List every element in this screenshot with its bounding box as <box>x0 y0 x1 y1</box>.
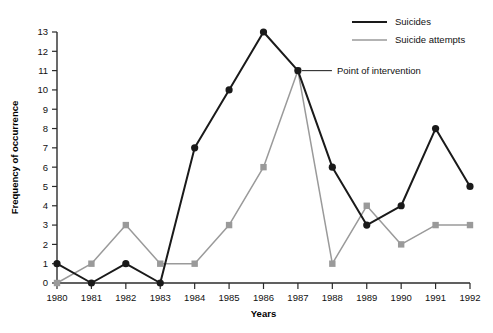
y-axis-ticks: 012345678910111213 <box>37 26 57 288</box>
x-tick-label: 1987 <box>287 292 308 303</box>
x-axis-title: Years <box>251 308 276 319</box>
data-point <box>260 164 266 170</box>
data-point <box>329 260 335 266</box>
data-point <box>398 202 405 209</box>
y-tick-label: 8 <box>43 123 48 134</box>
figure-caption <box>26 326 486 333</box>
x-tick-label: 1983 <box>150 292 171 303</box>
x-tick-label: 1988 <box>322 292 343 303</box>
y-tick-label: 6 <box>43 162 48 173</box>
data-point <box>432 125 439 132</box>
y-tick-label: 10 <box>37 84 48 95</box>
data-point <box>294 67 301 74</box>
x-axis-ticks: 1980198119821983198419851986198719881989… <box>46 283 480 303</box>
data-point <box>157 260 163 266</box>
y-tick-label: 2 <box>43 239 48 250</box>
data-point <box>225 86 232 93</box>
x-tick-label: 1980 <box>46 292 67 303</box>
data-point <box>88 279 95 286</box>
data-point <box>191 260 197 266</box>
x-tick-label: 1989 <box>356 292 377 303</box>
y-tick-label: 12 <box>37 46 48 57</box>
legend-item-suicides[interactable]: Suicides <box>352 16 431 27</box>
y-tick-label: 11 <box>38 65 48 76</box>
data-point <box>88 260 94 266</box>
y-tick-label: 0 <box>43 277 48 288</box>
data-point <box>260 28 267 35</box>
x-tick-label: 1984 <box>184 292 205 303</box>
data-point <box>329 164 336 171</box>
y-tick-label: 5 <box>43 181 48 192</box>
data-point <box>432 222 438 228</box>
x-tick-label: 1992 <box>459 292 480 303</box>
y-tick-label: 3 <box>43 219 48 230</box>
data-point <box>191 144 198 151</box>
figure: 0123456789101112131980198119821983198419… <box>0 0 493 333</box>
series-suicide-attempts <box>54 67 473 286</box>
y-axis-title: Frequency of occurrence <box>9 101 20 215</box>
data-point <box>122 260 129 267</box>
data-point <box>364 203 370 209</box>
data-point <box>363 221 370 228</box>
series-line <box>57 71 470 283</box>
legend-item-suicide-attempts[interactable]: Suicide attempts <box>352 34 465 45</box>
data-point <box>398 241 404 247</box>
x-tick-label: 1986 <box>253 292 274 303</box>
x-tick-label: 1991 <box>425 292 446 303</box>
legend-label: Suicides <box>395 16 431 27</box>
y-tick-label: 7 <box>43 142 48 153</box>
data-point <box>123 222 129 228</box>
data-point <box>53 260 60 267</box>
data-point <box>157 279 164 286</box>
y-tick-label: 9 <box>43 104 48 115</box>
y-tick-label: 4 <box>43 200 48 211</box>
x-tick-label: 1990 <box>391 292 412 303</box>
annotation-point-of-intervention: Point of intervention <box>302 65 421 76</box>
x-tick-label: 1985 <box>219 292 240 303</box>
data-point <box>466 183 473 190</box>
line-chart: 0123456789101112131980198119821983198419… <box>0 0 493 333</box>
x-tick-label: 1982 <box>115 292 136 303</box>
y-tick-label: 1 <box>43 258 48 269</box>
data-point <box>467 222 473 228</box>
x-tick-label: 1981 <box>81 292 102 303</box>
annotation-label: Point of intervention <box>337 65 421 76</box>
data-point <box>226 222 232 228</box>
y-tick-label: 13 <box>37 26 48 37</box>
data-point <box>54 280 60 286</box>
legend: SuicidesSuicide attempts <box>352 16 465 45</box>
legend-label: Suicide attempts <box>395 34 465 45</box>
